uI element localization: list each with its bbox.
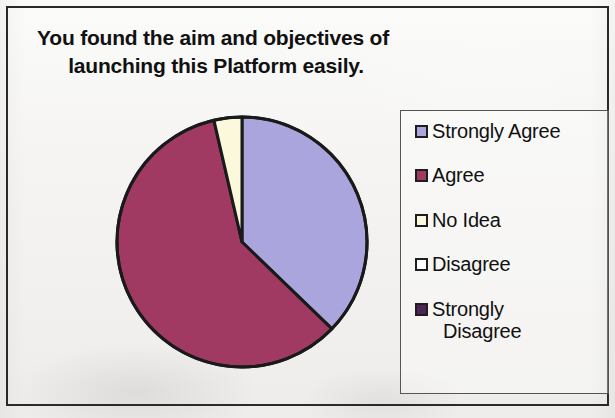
legend-swatch-icon bbox=[415, 258, 428, 271]
chart-title-line-2: launching this Platform easily. bbox=[18, 52, 408, 80]
legend-label: Strongly Disagree bbox=[432, 298, 521, 343]
legend-label: Agree bbox=[432, 164, 484, 186]
legend-label: Strongly Agree bbox=[432, 120, 560, 142]
legend-item-list: Strongly Agree Agree No Idea Disagree bbox=[415, 120, 604, 342]
chart-title: You found the aim and objectives of laun… bbox=[18, 24, 408, 79]
legend-swatch-icon bbox=[415, 303, 428, 316]
legend-label-line-1: Strongly Agree bbox=[432, 120, 560, 142]
legend-item-strongly-disagree[interactable]: Strongly Disagree bbox=[415, 298, 604, 343]
pie-chart-figure: You found the aim and objectives of laun… bbox=[0, 0, 615, 418]
pie-graphic bbox=[113, 113, 371, 371]
legend-swatch-icon bbox=[415, 214, 428, 227]
legend-label-line-1: Agree bbox=[432, 164, 484, 186]
legend-item-strongly-agree[interactable]: Strongly Agree bbox=[415, 120, 604, 142]
chart-title-line-1: You found the aim and objectives of bbox=[18, 24, 408, 52]
legend-item-disagree[interactable]: Disagree bbox=[415, 253, 604, 275]
legend-item-agree[interactable]: Agree bbox=[415, 164, 604, 186]
legend-label-line-2: Disagree bbox=[432, 320, 521, 342]
pie-plot-area bbox=[113, 113, 371, 371]
legend-swatch-icon bbox=[415, 125, 428, 138]
legend-label: Disagree bbox=[432, 253, 510, 275]
legend-label: No Idea bbox=[432, 209, 501, 231]
legend-label-line-1: Strongly bbox=[432, 298, 504, 320]
legend-item-no-idea[interactable]: No Idea bbox=[415, 209, 604, 231]
legend-label-line-1: Disagree bbox=[432, 253, 510, 275]
chart-legend: Strongly Agree Agree No Idea Disagree bbox=[400, 110, 609, 394]
legend-swatch-icon bbox=[415, 169, 428, 182]
legend-label-line-1: No Idea bbox=[432, 209, 501, 231]
